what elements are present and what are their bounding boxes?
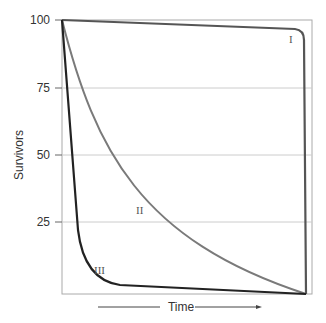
curve-III <box>62 20 306 294</box>
curve-II <box>62 20 306 294</box>
curve-label-I: I <box>289 33 293 45</box>
y-axis-label: Survivors <box>12 130 26 180</box>
x-axis-label: Time <box>168 300 195 314</box>
curve-label-III: III <box>94 264 105 276</box>
tick-label-75: 75 <box>37 81 51 95</box>
survivorship-chart: 100 75 50 25 Survivors Time I II III <box>0 0 326 323</box>
curve-label-II: II <box>136 204 144 216</box>
tick-label-25: 25 <box>37 215 51 229</box>
tick-label-100: 100 <box>30 13 50 27</box>
arrow-head-icon <box>256 305 262 309</box>
tick-label-50: 50 <box>37 148 51 162</box>
curve-I <box>62 20 306 294</box>
plot-frame <box>62 20 312 294</box>
